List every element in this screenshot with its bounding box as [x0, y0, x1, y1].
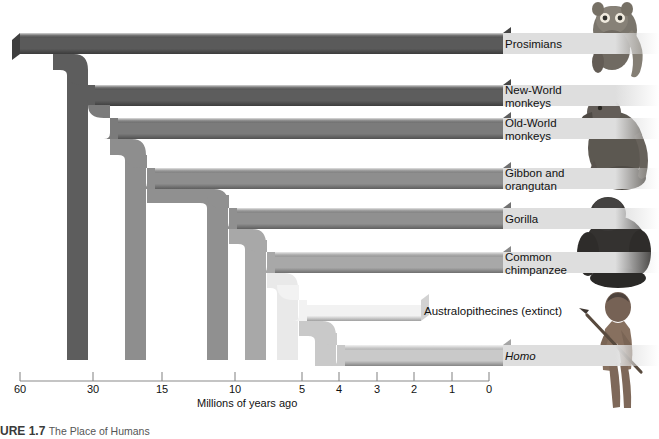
- figure-caption-number: URE 1.7: [0, 424, 45, 438]
- taxon-label-gorilla: Gorilla: [505, 213, 538, 226]
- branch-prosimians: [12, 33, 503, 60]
- axis-title: Millions of years ago: [197, 397, 297, 409]
- branch-gibbon-orangutan: [125, 155, 503, 189]
- taxon-label-homo: Homo: [505, 350, 536, 363]
- figure-caption-text: The Place of Humans: [49, 425, 150, 437]
- time-axis: [20, 372, 489, 381]
- taxon-label-australopithecines: Australopithecines (extinct): [424, 305, 562, 318]
- branch-new-world-monkeys: [67, 72, 503, 106]
- taxon-label-common-chimpanzee: Common chimpanzee: [505, 251, 567, 276]
- branch-hominoid-trunk: [110, 139, 146, 360]
- branch-homo: [299, 321, 503, 366]
- branch-old-world-monkeys: [88, 105, 503, 139]
- taxon-label-prosimians: Prosimians: [505, 38, 562, 51]
- taxon-label-old-world-monkeys: Old-World monkeys: [505, 117, 557, 142]
- taxon-label-new-world-monkeys: New-World monkeys: [505, 84, 562, 109]
- branch-anthropoid-trunk: [53, 54, 88, 360]
- figure-caption: URE 1.7 The Place of Humans: [0, 424, 659, 438]
- phylogenetic-tree-figure: ProsimiansNew-World monkeysOld-World mon…: [0, 0, 659, 439]
- branch-common-chimpanzee: [229, 229, 503, 360]
- taxon-label-gibbon-and-orangutan: Gibbon and orangutan: [505, 167, 564, 192]
